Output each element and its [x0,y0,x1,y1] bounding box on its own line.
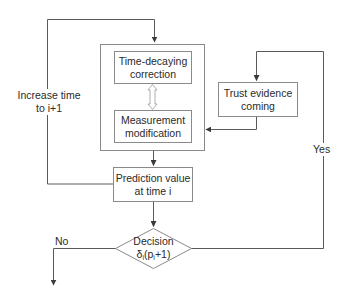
yes-label: Yes [312,143,331,156]
measurement-line2: modification [125,127,181,140]
measurement-modification-box: Measurement modification [114,110,192,143]
trust-to-measurement-connector [206,117,257,130]
correction-line1: Time-decaying [119,55,187,68]
decision-line1: Decision [123,235,184,248]
prediction-line1: Prediction value [116,172,191,185]
prediction-line2: at time i [135,185,172,198]
trust-evidence-box: Trust evidence coming [218,82,298,117]
measurement-line1: Measurement [121,114,185,127]
increase-time-line1: Increase time [17,89,81,102]
no-connector [54,249,116,286]
decision-formula: δi(pi+1) [123,248,184,264]
no-label: No [55,235,68,248]
bidirectional-hollow-arrow [148,85,157,110]
time-decaying-correction-box: Time-decaying correction [114,51,192,84]
prediction-value-box: Prediction value at time i [113,167,193,202]
correction-line2: correction [130,68,176,81]
decision-label: Decision δi(pi+1) [123,235,184,264]
increase-time-label: Increase time to i+1 [16,89,82,115]
formula-mid: (p [144,248,153,260]
increase-time-line2: to i+1 [17,102,81,115]
formula-suffix: +1) [155,248,170,260]
trust-line1: Trust evidence [224,87,292,100]
trust-line2: coming [241,100,275,113]
